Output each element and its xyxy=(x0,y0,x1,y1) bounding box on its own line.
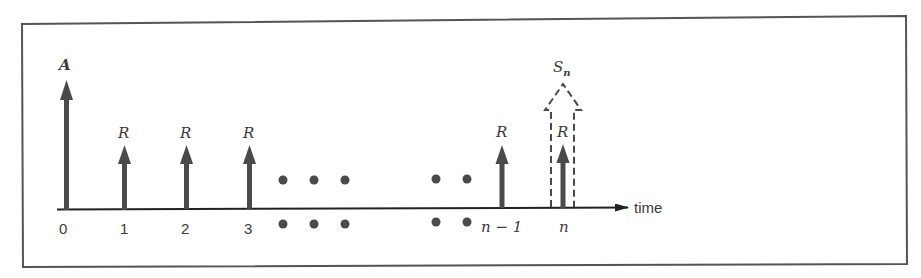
arrow-initial-amount xyxy=(60,80,73,210)
arrow-payment-n xyxy=(557,144,570,208)
tick-0: 0 xyxy=(59,220,67,237)
label-final-sum: Sn xyxy=(553,58,571,78)
arrow-payment-1 xyxy=(118,145,131,210)
arrow-payment-2 xyxy=(180,145,193,209)
label-payment-3: R xyxy=(242,124,254,142)
tick-n-minus-1: n − 1 xyxy=(481,218,522,236)
tick-n: n xyxy=(559,218,569,236)
axis-label-time: time xyxy=(634,199,662,216)
label-payment-1: R xyxy=(117,124,129,142)
cash-flow-diagram: time A 0 R 1 R 2 R 3 R xyxy=(0,0,921,278)
label-payment-n: R xyxy=(556,123,568,141)
label-payment-2: R xyxy=(179,124,191,142)
diagram-frame xyxy=(22,16,907,267)
ellipsis-dots-upper xyxy=(279,175,472,185)
label-initial-amount: A xyxy=(57,56,71,74)
tick-1: 1 xyxy=(120,220,128,237)
arrow-payment-3 xyxy=(243,145,256,209)
ellipsis-dots-lower xyxy=(279,218,472,229)
tick-2: 2 xyxy=(181,220,189,237)
tick-3: 3 xyxy=(244,220,252,237)
label-payment-n-minus-1: R xyxy=(495,123,507,141)
arrow-payment-n-minus-1 xyxy=(496,145,509,208)
time-axis xyxy=(57,208,628,210)
